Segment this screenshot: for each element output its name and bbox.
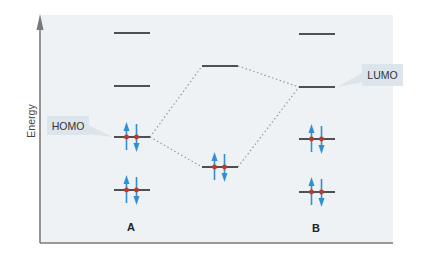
electron-dot (124, 188, 129, 193)
homo-callout-label: HOMO (52, 120, 85, 132)
molecule-b-label: B (312, 222, 320, 234)
electron-dot (309, 190, 314, 195)
energy-axis-label: Energy (25, 104, 37, 138)
electron-dot (319, 190, 324, 195)
electron-dot (212, 165, 217, 170)
electron-dot (124, 135, 129, 140)
electron-dot (319, 137, 324, 142)
molecule-a-label: A (127, 221, 135, 233)
electron-dot (222, 165, 227, 170)
lumo-callout-label: LUMO (367, 69, 397, 81)
electron-dot (134, 135, 139, 140)
electron-dot (134, 188, 139, 193)
electron-dot (309, 137, 314, 142)
orbital-energy-diagram: Energy HOMO LUMO A B (0, 0, 426, 254)
